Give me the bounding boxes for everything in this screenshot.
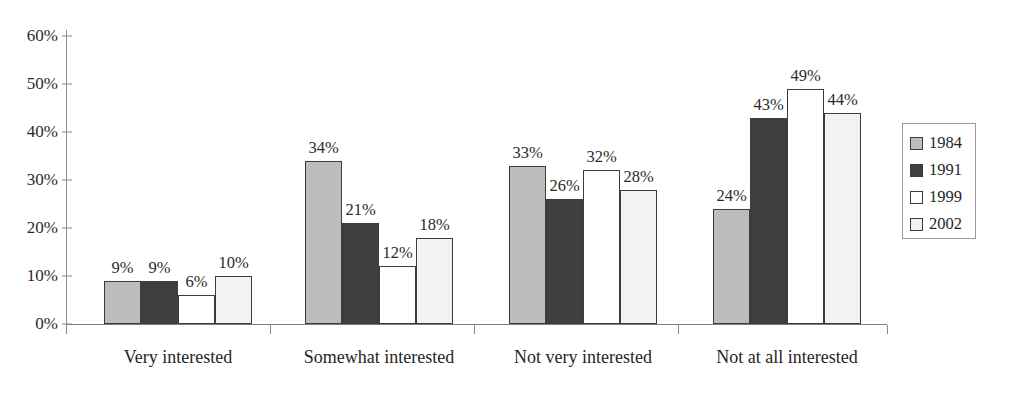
legend-item[interactable]: 2002 bbox=[910, 211, 975, 238]
legend-item-label: 2002 bbox=[929, 216, 962, 233]
legend-swatch-icon bbox=[910, 191, 923, 204]
legend-swatch-icon bbox=[910, 137, 923, 150]
bar-value-label: 21% bbox=[345, 200, 375, 220]
bar bbox=[546, 199, 583, 324]
bar-value-label: 34% bbox=[308, 138, 338, 158]
bar bbox=[178, 295, 215, 324]
bar bbox=[379, 266, 416, 324]
legend-swatch-icon bbox=[910, 218, 923, 231]
legend-item-label: 1999 bbox=[929, 189, 962, 206]
x-axis-line bbox=[66, 324, 887, 325]
y-tick-label: 40% bbox=[27, 122, 58, 142]
y-tick-label: 50% bbox=[27, 74, 58, 94]
y-tick-label: 30% bbox=[27, 170, 58, 190]
y-tick-label: 0% bbox=[35, 314, 58, 334]
bar-value-label: 33% bbox=[512, 143, 542, 163]
bar-value-label: 32% bbox=[586, 147, 616, 167]
x-tick-mark bbox=[678, 325, 679, 334]
bar-value-label: 9% bbox=[112, 258, 134, 278]
bar-value-label: 9% bbox=[149, 258, 171, 278]
legend-swatch-icon bbox=[910, 164, 923, 177]
legend: 1984199119992002 bbox=[902, 123, 976, 239]
bar-value-label: 26% bbox=[549, 176, 579, 196]
x-category-label: Not very interested bbox=[514, 347, 652, 368]
bar-chart: 0%10%20%30%40%50%60% 9%9%6%10%34%21%12%1… bbox=[0, 0, 1012, 393]
x-tick-mark bbox=[66, 325, 67, 334]
bar-value-label: 49% bbox=[790, 66, 820, 86]
bar bbox=[713, 209, 750, 324]
bar-value-label: 12% bbox=[382, 243, 412, 263]
bar-value-label: 10% bbox=[218, 253, 248, 273]
bar bbox=[620, 190, 657, 324]
x-tick-mark bbox=[887, 325, 888, 334]
bar bbox=[215, 276, 252, 324]
bar-value-label: 28% bbox=[623, 167, 653, 187]
bar bbox=[750, 118, 787, 324]
y-tick-label: 20% bbox=[27, 218, 58, 238]
x-tick-mark bbox=[270, 325, 271, 334]
legend-item[interactable]: 1999 bbox=[910, 184, 975, 211]
bar bbox=[787, 89, 824, 324]
bar bbox=[342, 223, 379, 324]
legend-item[interactable]: 1991 bbox=[910, 157, 975, 184]
bar bbox=[141, 281, 178, 324]
bar bbox=[305, 161, 342, 324]
bar bbox=[416, 238, 453, 324]
bar bbox=[104, 281, 141, 324]
bar bbox=[583, 170, 620, 324]
legend-item-label: 1984 bbox=[929, 135, 962, 152]
legend-item[interactable]: 1984 bbox=[910, 130, 975, 157]
x-category-label: Not at all interested bbox=[716, 347, 857, 368]
y-tick-label: 60% bbox=[27, 26, 58, 46]
legend-item-label: 1991 bbox=[929, 162, 962, 179]
bar bbox=[509, 166, 546, 324]
bar-value-label: 6% bbox=[186, 272, 208, 292]
bar-value-label: 24% bbox=[716, 186, 746, 206]
bar bbox=[824, 113, 861, 324]
y-tick-label: 10% bbox=[27, 266, 58, 286]
x-category-label: Somewhat interested bbox=[304, 347, 454, 368]
bar-value-label: 18% bbox=[419, 215, 449, 235]
bar-value-label: 44% bbox=[827, 90, 857, 110]
x-tick-mark bbox=[474, 325, 475, 334]
x-category-label: Very interested bbox=[124, 347, 232, 368]
bar-value-label: 43% bbox=[753, 95, 783, 115]
plot-area: 9%9%6%10%34%21%12%18%33%26%32%28%24%43%4… bbox=[66, 36, 887, 324]
